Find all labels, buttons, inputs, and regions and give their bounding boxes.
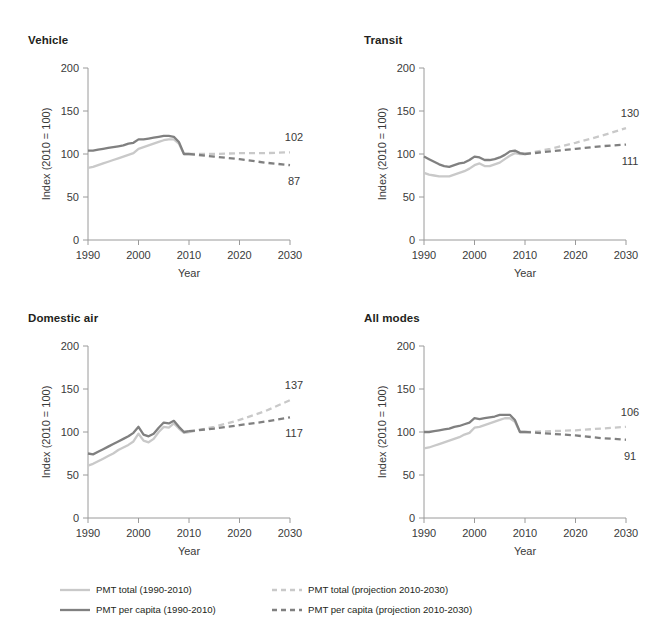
x-tick-label: 2000 <box>126 527 150 539</box>
y-tick-label: 0 <box>409 512 415 524</box>
data-line <box>525 427 626 432</box>
end-value-label: 102 <box>285 131 303 143</box>
x-tick-label: 2000 <box>462 249 486 261</box>
y-tick-label: 0 <box>409 234 415 246</box>
x-tick-label: 2010 <box>177 527 201 539</box>
end-value-label: 130 <box>621 107 639 119</box>
legend-label: PMT per capita (projection 2010-2030) <box>308 605 472 615</box>
data-line <box>424 418 525 448</box>
y-axis-label: Index (2010 = 100) <box>40 108 52 201</box>
data-line <box>525 128 626 154</box>
chart-panel: Vehicle05010015020019902000201020202030Y… <box>0 20 335 298</box>
x-tick-label: 2030 <box>614 527 638 539</box>
x-tick-label: 1990 <box>412 527 436 539</box>
x-axis-label: Year <box>514 267 537 279</box>
legend-label: PMT per capita (1990-2010) <box>96 605 216 615</box>
y-tick-label: 0 <box>73 512 79 524</box>
x-tick-label: 2030 <box>278 527 302 539</box>
data-line <box>88 421 189 455</box>
y-tick-label: 200 <box>397 62 415 74</box>
y-tick-label: 200 <box>397 340 415 352</box>
legend-swatch-dashed-icon <box>272 604 302 616</box>
y-tick-label: 200 <box>61 62 79 74</box>
y-tick-label: 100 <box>61 148 79 160</box>
x-tick-label: 2000 <box>126 249 150 261</box>
legend-item-pmt-total-historical[interactable]: PMT total (1990-2010) <box>60 584 192 596</box>
plot-area: 05010015020019902000201020202030YearInde… <box>0 20 335 298</box>
end-value-label: 117 <box>285 427 303 439</box>
data-line <box>189 154 290 165</box>
y-axis-label: Index (2010 = 100) <box>376 386 388 479</box>
y-tick-label: 150 <box>61 105 79 117</box>
y-tick-label: 200 <box>61 340 79 352</box>
x-tick-label: 2030 <box>278 249 302 261</box>
x-tick-label: 1990 <box>76 527 100 539</box>
data-line <box>88 423 189 465</box>
plot-area: 05010015020019902000201020202030YearInde… <box>0 298 335 576</box>
y-tick-label: 50 <box>67 469 79 481</box>
x-tick-label: 1990 <box>76 249 100 261</box>
y-tick-label: 150 <box>397 105 415 117</box>
x-tick-label: 2030 <box>614 249 638 261</box>
chart-panel: All modes0501001502001990200020102020203… <box>336 298 671 576</box>
x-tick-label: 1990 <box>412 249 436 261</box>
legend-item-pmt-per-capita-historical[interactable]: PMT per capita (1990-2010) <box>60 604 216 616</box>
x-tick-label: 2020 <box>563 249 587 261</box>
x-axis-label: Year <box>178 545 201 557</box>
x-tick-label: 2000 <box>462 527 486 539</box>
legend-swatch-solid-icon <box>60 584 90 596</box>
y-tick-label: 150 <box>397 383 415 395</box>
x-tick-label: 2010 <box>513 249 537 261</box>
x-tick-label: 2020 <box>227 249 251 261</box>
y-axis-label: Index (2010 = 100) <box>376 108 388 201</box>
data-line <box>189 152 290 154</box>
y-tick-label: 0 <box>73 234 79 246</box>
legend-swatch-solid-icon <box>60 604 90 616</box>
data-line <box>525 432 626 440</box>
x-tick-label: 2010 <box>513 527 537 539</box>
legend-item-pmt-total-projection[interactable]: PMT total (projection 2010-2030) <box>272 584 448 596</box>
data-line <box>189 400 290 432</box>
y-tick-label: 50 <box>403 469 415 481</box>
legend-label: PMT total (1990-2010) <box>96 585 192 595</box>
end-value-label: 137 <box>285 379 303 391</box>
x-tick-label: 2010 <box>177 249 201 261</box>
legend-item-pmt-per-capita-projection[interactable]: PMT per capita (projection 2010-2030) <box>272 604 472 616</box>
data-line <box>88 139 189 167</box>
end-value-label: 106 <box>621 406 639 418</box>
x-tick-label: 2020 <box>227 527 251 539</box>
chart-panel: Domestic air0501001502001990200020102020… <box>0 298 335 576</box>
end-value-label: 111 <box>622 155 639 167</box>
chart-legend: PMT total (1990-2010)PMT total (projecti… <box>0 578 671 636</box>
chart-panel: Transit05010015020019902000201020202030Y… <box>336 20 671 298</box>
legend-label: PMT total (projection 2010-2030) <box>308 585 448 595</box>
end-value-label: 91 <box>624 450 636 462</box>
small-multiples-figure: Vehicle05010015020019902000201020202030Y… <box>0 0 671 636</box>
y-tick-label: 50 <box>403 191 415 203</box>
y-axis-label: Index (2010 = 100) <box>40 386 52 479</box>
y-tick-label: 100 <box>397 148 415 160</box>
legend-swatch-dashed-icon <box>272 584 302 596</box>
y-tick-label: 100 <box>61 426 79 438</box>
end-value-label: 87 <box>288 175 300 187</box>
y-tick-label: 100 <box>397 426 415 438</box>
y-tick-label: 50 <box>67 191 79 203</box>
x-axis-label: Year <box>514 545 537 557</box>
data-line <box>525 145 626 154</box>
plot-area: 05010015020019902000201020202030YearInde… <box>336 298 671 576</box>
x-axis-label: Year <box>178 267 201 279</box>
y-tick-label: 150 <box>61 383 79 395</box>
plot-area: 05010015020019902000201020202030YearInde… <box>336 20 671 298</box>
x-tick-label: 2020 <box>563 527 587 539</box>
